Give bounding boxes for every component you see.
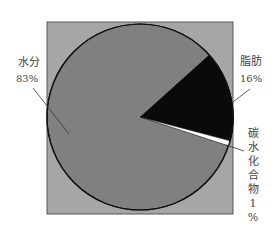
label-carbohydrate-unit: % <box>247 211 259 225</box>
label-water-name: 水分 <box>18 56 40 69</box>
label-char: 碳 <box>247 127 259 141</box>
label-water-percent: 83% <box>16 72 38 85</box>
leader-line-fat <box>233 89 250 102</box>
label-char: 合 <box>247 169 259 183</box>
label-char: 化 <box>247 155 259 169</box>
label-char: 水 <box>247 141 259 155</box>
label-carbohydrate: 碳 水 化 合 物 1 % <box>247 127 259 225</box>
label-fat-name: 脂肪 <box>240 55 262 68</box>
label-fat-percent: 16% <box>240 72 262 85</box>
pie-chart <box>0 0 273 232</box>
label-char: 物 <box>247 183 259 197</box>
label-carbohydrate-number: 1 <box>247 197 259 211</box>
